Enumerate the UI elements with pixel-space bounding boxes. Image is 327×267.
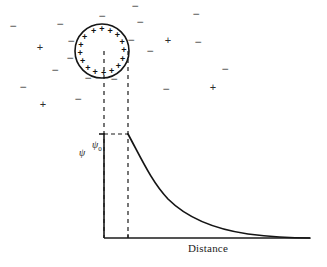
ion-negative: − bbox=[84, 72, 91, 84]
ion-negative: − bbox=[127, 34, 134, 46]
y-axis-label: ψ bbox=[79, 148, 85, 158]
surface-positive-charge: + bbox=[101, 68, 106, 77]
surface-positive-charge: + bbox=[77, 49, 82, 58]
ion-positive: + bbox=[165, 35, 171, 46]
surface-positive-charge: + bbox=[109, 66, 114, 75]
ion-negative: − bbox=[146, 45, 153, 57]
potential-decay-curve bbox=[128, 134, 310, 238]
ion-negative: − bbox=[162, 83, 169, 95]
surface-positive-charge: + bbox=[116, 61, 121, 70]
ion-negative: − bbox=[9, 20, 16, 32]
surface-positive-charge: + bbox=[82, 33, 87, 42]
ion-negative: − bbox=[136, 16, 143, 28]
ion-negative: − bbox=[19, 81, 26, 93]
ion-negative: − bbox=[98, 10, 105, 22]
ion-negative: − bbox=[221, 63, 228, 75]
ion-negative: − bbox=[131, 0, 138, 12]
surface-positive-charge: + bbox=[80, 57, 85, 66]
ion-negative: − bbox=[192, 8, 199, 20]
surface-positive-charge: + bbox=[93, 67, 98, 76]
ion-positive: + bbox=[40, 99, 46, 110]
ion-negative: − bbox=[74, 93, 81, 105]
ion-negative: − bbox=[56, 18, 63, 30]
ion-negative: − bbox=[51, 64, 58, 76]
psi-zero-subscript: 0 bbox=[98, 145, 102, 153]
figure-canvas: −−+−−+−−−−−−−−−+−−−−+− ++++++++++++++++ … bbox=[0, 0, 327, 267]
ion-negative: − bbox=[67, 35, 74, 47]
surface-positive-charge: + bbox=[99, 25, 104, 34]
diagram-graphics bbox=[0, 0, 327, 267]
ion-negative: − bbox=[194, 36, 201, 48]
ion-positive: + bbox=[37, 42, 43, 53]
surface-positive-charge: + bbox=[91, 26, 96, 35]
ion-positive: + bbox=[210, 82, 216, 93]
ion-negative: − bbox=[66, 52, 73, 64]
x-axis-label: Distance bbox=[188, 243, 228, 254]
surface-positive-charge: + bbox=[108, 26, 113, 35]
surface-positive-charge: + bbox=[85, 63, 90, 72]
